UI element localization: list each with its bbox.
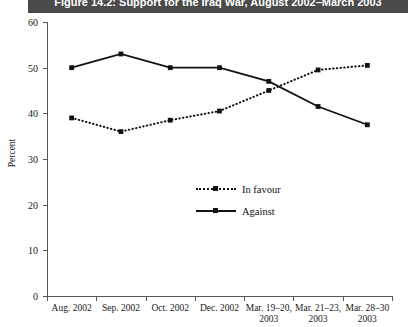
data-point-marker [69, 65, 74, 70]
series-line-against [72, 54, 368, 125]
data-point-marker [217, 109, 222, 114]
legend-item-against: Against [196, 200, 281, 222]
data-point-marker [168, 65, 173, 70]
solid-line-icon [196, 206, 236, 216]
data-point-marker [119, 52, 124, 57]
legend-label-against: Against [242, 206, 275, 217]
chart-plot-area: Percent 0102030405060 Aug. 2002Sep. 2002… [0, 0, 408, 327]
data-point-marker [168, 118, 173, 123]
dotted-line-icon [196, 184, 236, 194]
chart-legend: In favour Against [196, 178, 281, 222]
data-point-marker [119, 129, 124, 134]
data-point-marker [266, 79, 271, 84]
chart-series-layer [0, 0, 408, 327]
data-point-marker [316, 104, 321, 109]
data-point-marker [69, 116, 74, 121]
data-point-marker [217, 65, 222, 70]
legend-label-in-favour: In favour [242, 184, 281, 195]
data-point-marker [266, 88, 271, 93]
legend-item-in-favour: In favour [196, 178, 281, 200]
data-point-marker [365, 122, 370, 127]
figure-container: Figure 14.2: Support for the Iraq War, A… [0, 0, 408, 327]
data-point-marker [365, 63, 370, 68]
data-point-marker [316, 68, 321, 73]
series-line-in-favour [72, 65, 368, 131]
